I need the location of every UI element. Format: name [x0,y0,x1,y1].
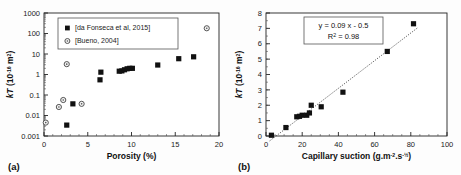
panel-b-ytick-label: 0 [258,132,262,141]
panel-b-ytick-label: 2 [258,101,262,110]
panel-a-plot: 0.0010.010.1110100100005101520Porosity (… [0,0,230,175]
panel-a-xtick-label: 10 [127,140,135,149]
data-point [155,62,160,67]
panel-b-x-axis-title: Capillary suction (g.m-2.s-½) [302,151,412,161]
data-point [283,125,288,130]
panel-b-ytick-label: 4 [258,70,262,79]
legend-marker-fonseca [65,26,70,31]
panel-b-ytick-label: 8 [258,9,262,18]
panel-b-ytick-label: 1 [258,116,262,125]
panel-b-xtick-label: 0 [264,140,268,149]
panel-b-suction-vs-kt: 012345678020406080100Capillary suction (… [231,0,461,175]
data-point-center [45,122,47,124]
panel-b-xtick-label: 60 [370,140,378,149]
panel-b-xtick-label: 40 [334,140,342,149]
panel-a-ytick-label: 0.1 [30,91,40,100]
legend-label-fonseca: [da Fonseca et al, 2015] [75,24,150,32]
panel-a-label: (a) [8,161,20,172]
data-point [70,101,75,106]
panel-b-xtick-label: 100 [441,140,454,149]
data-point [411,21,416,26]
data-point [130,66,135,71]
panel-a-y-axis-title: kT (10-16 m2) [5,50,15,98]
data-point-center [81,103,83,105]
panel-a-ytick-label: 0.001 [21,132,40,141]
data-point [340,90,345,95]
panel-b-xtick-label: 20 [298,140,306,149]
panel-b-ytick-label: 5 [258,55,262,64]
panel-a-ytick-label: 1 [36,70,40,79]
panel-b-plot: 012345678020406080100Capillary suction (… [231,0,461,175]
panel-b-y-axis-title: kT (10-16 m2) [234,50,244,98]
panel-b-equation-text: y = 0.09 x - 0.5 [319,21,369,30]
panel-a-ytick-label: 10 [32,50,40,59]
panel-a-xtick-label: 20 [215,140,223,149]
panel-b-ytick-label: 3 [258,86,262,95]
data-point [97,77,102,82]
data-point-center [66,63,68,65]
data-point [307,110,312,115]
data-point [98,70,103,75]
panel-a-porosity-vs-kt: 0.0010.010.1110100100005101520Porosity (… [0,0,230,175]
panel-a-ytick-label: 100 [27,29,40,38]
data-point [385,49,390,54]
panel-a-ytick-label: 1000 [23,9,40,18]
panel-a-xtick-label: 5 [86,140,90,149]
panel-b-ytick-label: 6 [258,39,262,48]
panel-a-ytick-label: 0.01 [25,111,40,120]
panel-b-label: (b) [238,161,250,172]
panel-b-r-squared-text: R2 = 0.98 [328,32,359,41]
panel-b-ytick-label: 7 [258,24,262,33]
data-point-center [58,106,60,108]
data-point [191,54,196,59]
panel-a-xtick-label: 15 [171,140,179,149]
legend-label-bueno: [Bueno, 2004] [75,37,119,45]
data-point [300,113,305,118]
figure-container: 0.0010.010.1110100100005101520Porosity (… [0,0,461,175]
panel-b-xtick-label: 80 [407,140,415,149]
panel-a-x-axis-title: Porosity (%) [107,151,157,161]
data-point [319,104,324,109]
legend-marker-bueno-center [67,40,69,42]
data-point [176,56,181,61]
data-point [64,123,69,128]
panel-a-xtick-label: 0 [42,140,46,149]
data-point [269,133,274,138]
data-point-center [206,27,208,29]
data-point-center [62,99,64,101]
data-point [309,103,314,108]
